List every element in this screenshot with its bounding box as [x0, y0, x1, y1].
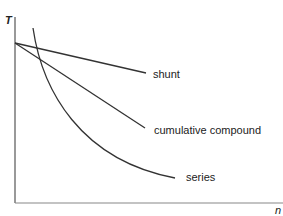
shunt-curve	[15, 43, 146, 73]
x-axis-label: n	[275, 205, 281, 216]
chart-canvas	[0, 0, 283, 216]
y-axis-label: T	[5, 15, 12, 26]
cumulative-compound-label: cumulative compound	[154, 125, 261, 136]
cumulative-compound-curve	[15, 43, 145, 128]
shunt-label: shunt	[153, 69, 180, 80]
series-curve	[33, 28, 175, 178]
series-label: series	[186, 172, 215, 183]
